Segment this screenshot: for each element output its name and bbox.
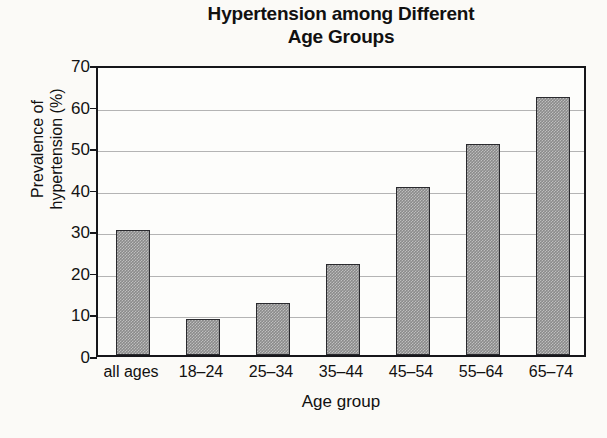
bar-45-54 [396, 187, 430, 355]
y-axis-tick-mark [90, 315, 97, 317]
chart-title-line-2: Age Groups [96, 25, 586, 48]
y-axis-tick-label: 30 [56, 224, 90, 241]
y-axis-tick-mark [90, 66, 97, 68]
bar-25-34 [256, 303, 290, 355]
x-axis-tick-label: 55–64 [459, 362, 504, 382]
bar-chart-figure: Hypertension among Different Age Groups … [0, 0, 607, 438]
x-axis-tick-label: 18–24 [179, 362, 224, 382]
bar-35-44 [326, 264, 360, 355]
bar-all-ages [116, 230, 150, 355]
y-axis-tick-mark [90, 149, 97, 151]
chart-title: Hypertension among Different Age Groups [96, 2, 586, 48]
x-axis-tick-labels: all ages18–2425–3435–4445–5455–6465–74 [96, 362, 586, 386]
bar-55-64 [466, 144, 500, 355]
y-axis-tick-label: 50 [56, 141, 90, 158]
bar-18-24 [186, 319, 220, 355]
bar-65-74 [536, 97, 570, 355]
y-axis-tick-mark [90, 232, 97, 234]
x-axis-tick-label: 25–34 [249, 362, 294, 382]
x-axis-tick-label: 65–74 [529, 362, 574, 382]
y-axis-tick-label: 10 [56, 307, 90, 324]
y-axis-tick-label: 20 [56, 265, 90, 282]
y-axis-tick-mark [90, 191, 97, 193]
y-axis-tick-mark [90, 108, 97, 110]
y-axis-tick-label: 70 [56, 58, 90, 75]
y-axis-tick-labels: 010203040506070 [50, 66, 90, 357]
y-axis-tick-label: 60 [56, 99, 90, 116]
y-axis-title-line-1: Prevalence of [28, 24, 47, 274]
bars-layer [98, 68, 584, 355]
chart-title-line-1: Hypertension among Different [96, 2, 586, 25]
x-axis-title: Age group [96, 392, 586, 412]
x-axis-tick-label: all ages [103, 362, 158, 382]
plot-area [96, 66, 586, 357]
x-axis-tick-label: 45–54 [389, 362, 434, 382]
y-axis-tick-mark [90, 357, 97, 359]
y-axis-tick-mark [90, 274, 97, 276]
x-axis-tick-label: 35–44 [319, 362, 364, 382]
y-axis-tick-label: 40 [56, 182, 90, 199]
y-axis-tick-label: 0 [56, 349, 90, 366]
